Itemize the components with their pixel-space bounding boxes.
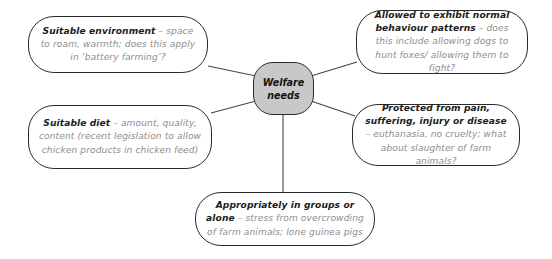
- center-node-label-line1: Welfare: [263, 77, 305, 88]
- branch-node-diet[interactable]: Suitable diet – amount, quality, content…: [28, 105, 212, 169]
- branch-node-environment-text: Suitable environment – space to roam, wa…: [38, 25, 198, 65]
- connector-center-to-diet: [211, 101, 256, 113]
- branch-node-environment[interactable]: Suitable environment – space to roam, wa…: [28, 16, 208, 73]
- branch-node-environment-bold: Suitable environment: [43, 26, 156, 36]
- mind-map-diagram: Welfare needs Suitable environment – spa…: [0, 0, 552, 259]
- branch-node-grouping-text: Appropriately in groups or alone – stres…: [205, 199, 365, 239]
- connector-center-to-environment: [208, 66, 256, 76]
- branch-node-diet-bold: Suitable diet: [43, 118, 110, 128]
- connector-center-to-behaviour: [311, 62, 357, 76]
- branch-node-protection-rest: – euthanasia, no cruelty; what about sla…: [366, 129, 507, 165]
- branch-node-diet-text: Suitable diet – amount, quality, content…: [38, 117, 202, 157]
- branch-node-behaviour-text: Allowed to exhibit normal behaviour patt…: [366, 9, 518, 75]
- branch-node-protection[interactable]: Protected from pain, suffering, injury o…: [352, 104, 520, 166]
- connector-center-to-protection: [311, 101, 355, 116]
- center-node-welfare-needs[interactable]: Welfare needs: [253, 62, 314, 115]
- branch-node-protection-text: Protected from pain, suffering, injury o…: [362, 102, 510, 168]
- branch-node-behaviour[interactable]: Allowed to exhibit normal behaviour patt…: [356, 10, 528, 74]
- branch-node-grouping[interactable]: Appropriately in groups or alone – stres…: [195, 192, 375, 246]
- center-node-label: Welfare needs: [263, 76, 305, 102]
- branch-node-protection-bold: Protected from pain, suffering, injury o…: [365, 103, 507, 126]
- center-node-label-line2: needs: [267, 90, 299, 101]
